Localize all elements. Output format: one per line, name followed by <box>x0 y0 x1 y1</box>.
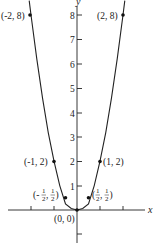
svg-text:2: 2 <box>105 195 109 203</box>
svg-text:1: 1 <box>70 182 75 192</box>
svg-text:7: 7 <box>70 35 75 45</box>
parabola-figure: x y 8 7 6 5 4 3 2 1 (-2, 8) (2, 8) (-1, <box>0 0 155 243</box>
y-axis-ticks <box>77 15 82 234</box>
svg-text:,: , <box>100 190 102 200</box>
svg-text:3: 3 <box>70 133 75 143</box>
label-neg2-8: (-2, 8) <box>1 11 25 22</box>
graph: x y 8 7 6 5 4 3 2 1 (-2, 8) (2, 8) (-1, <box>0 0 155 243</box>
svg-text:1: 1 <box>51 187 55 195</box>
svg-text:): ) <box>110 190 113 201</box>
svg-text:(: ( <box>92 190 95 201</box>
svg-text:(-: (- <box>33 190 39 201</box>
svg-text:2: 2 <box>70 157 75 167</box>
svg-text:4: 4 <box>70 109 75 119</box>
y-tick-labels: 8 7 6 5 4 3 2 1 <box>70 11 75 192</box>
x-axis-label: x <box>147 204 153 215</box>
point-1-2 <box>98 160 102 164</box>
point-neghalf-half <box>64 196 68 200</box>
plotted-points <box>28 13 125 212</box>
svg-text:8: 8 <box>70 11 75 21</box>
svg-text:6: 6 <box>70 60 75 70</box>
point-half-half <box>87 196 91 200</box>
svg-text:): ) <box>56 190 59 201</box>
label-neg1-2: (-1, 2) <box>24 157 48 168</box>
point-neg2-8 <box>28 13 32 17</box>
y-axis-label: y <box>75 0 81 7</box>
svg-text:5: 5 <box>70 84 75 94</box>
point-2-8 <box>121 13 125 17</box>
point-origin <box>75 208 79 212</box>
svg-text:2: 2 <box>51 195 55 203</box>
svg-text:1: 1 <box>105 187 109 195</box>
label-origin: (0, 0) <box>54 214 75 225</box>
label-1-2: (1, 2) <box>103 157 124 168</box>
point-neg1-2 <box>52 160 56 164</box>
svg-text:,: , <box>46 190 48 200</box>
label-2-8: (2, 8) <box>97 11 118 22</box>
label-neghalf-half: (- 1 2 , 1 2 ) <box>33 187 59 203</box>
label-half-half: ( 1 2 , 1 2 ) <box>92 187 113 203</box>
